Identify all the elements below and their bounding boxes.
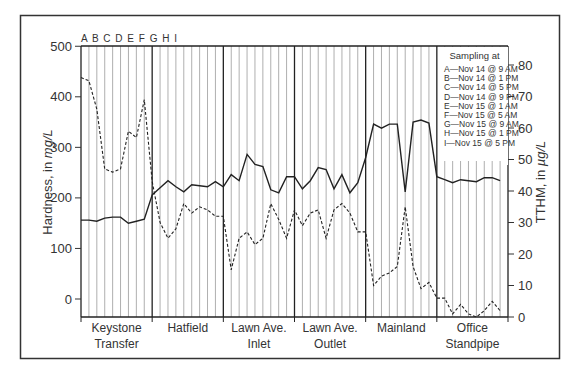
- category-label: Mainland: [377, 321, 426, 335]
- legend-item: I—Nov 15 @ 5 PM: [444, 138, 515, 148]
- y2-axis-title: TTHM, in µg/L: [533, 141, 548, 224]
- y-tick-label: 400: [50, 89, 72, 104]
- y2-tick-label: 20: [518, 247, 532, 262]
- y-tick-label: 100: [50, 241, 72, 256]
- y-tick-label: 500: [50, 39, 72, 54]
- y2-tick-label: 70: [518, 89, 532, 104]
- y2-tick-label: 0: [518, 310, 525, 325]
- legend-title: Sampling at: [449, 50, 500, 61]
- category-label: Lawn Ave.Outlet: [303, 321, 358, 351]
- category-label: OfficeStandpipe: [445, 321, 499, 351]
- y2-tick-label: 40: [518, 184, 532, 199]
- chart: KeystoneTransferHatfieldLawn Ave.InletLa…: [0, 0, 575, 375]
- y2-tick-label: 60: [518, 121, 532, 136]
- category-label: Lawn Ave.Inlet: [231, 321, 286, 351]
- legend: Sampling atA—Nov 14 @ 9 AMB—Nov 14 @ 1 P…: [441, 47, 519, 165]
- y-axis-title: Hardness, in mg/L: [40, 129, 55, 235]
- category-label: Hatfield: [167, 321, 208, 335]
- y2-tick-label: 30: [518, 215, 532, 230]
- y2-tick-label: 50: [518, 152, 532, 167]
- category-label: KeystoneTransfer: [92, 321, 142, 351]
- sampling-letters: A B C D E F G H I: [81, 33, 178, 44]
- y-tick-label: 0: [65, 292, 72, 307]
- y2-tick-label: 10: [518, 278, 532, 293]
- y2-tick-label: 80: [518, 58, 532, 73]
